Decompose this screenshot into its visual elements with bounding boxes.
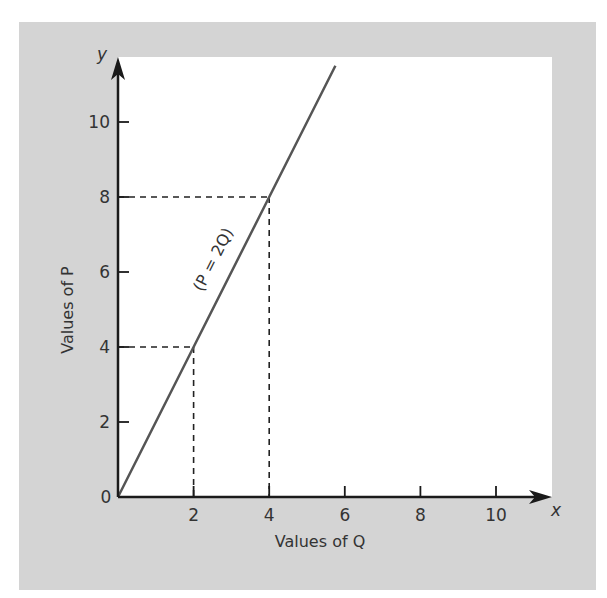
y-tick-label: 10 — [88, 112, 110, 132]
y-tick-label: 2 — [99, 412, 110, 432]
x-tick-label: 2 — [188, 505, 199, 525]
y-tick-label: 6 — [99, 262, 110, 282]
x-axis-letter: x — [550, 500, 562, 520]
x-tick-label: 10 — [485, 505, 507, 525]
y-axis-title: Values of P — [58, 266, 77, 354]
y-axis-letter: y — [96, 44, 108, 64]
x-tick-label: 6 — [339, 505, 350, 525]
x-axis-title: Values of Q — [275, 532, 365, 551]
chart: 246810 246810 0 y x Values of Q Values o… — [0, 0, 607, 598]
origin-label: 0 — [101, 487, 112, 507]
x-tick-label: 8 — [415, 505, 426, 525]
y-tick-label: 4 — [99, 337, 110, 357]
x-tick-label: 4 — [264, 505, 275, 525]
y-tick-label: 8 — [99, 187, 110, 207]
plot-area — [118, 57, 552, 497]
